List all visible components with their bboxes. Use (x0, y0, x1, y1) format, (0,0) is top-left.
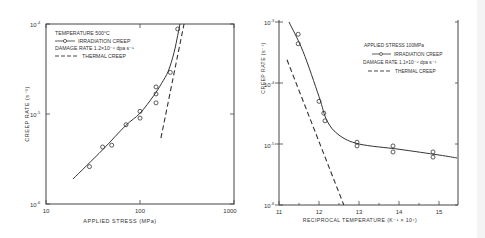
left-axis-ticks (46, 24, 234, 204)
right-legend-damage-rate: DAMAGE RATE 1.1×10⁻⁶ dpa s⁻¹ (363, 60, 437, 65)
right-ytick-label: 10-5 (264, 141, 275, 149)
right-xtick-label: 13 (356, 209, 363, 215)
left-plot-frame (46, 24, 234, 204)
left-ytick-label: 10-4 (30, 20, 41, 28)
right-x-axis-label: RECIPROCAL TEMPERATURE (K⁻¹ × 10⁴) (303, 217, 417, 223)
right-legend-thermal: THERMAL CREEP (395, 69, 436, 74)
figure: 10-4 10-5 10-6 10 100 1000 APPLIED STRES… (0, 0, 485, 238)
left-chart: 10-4 10-5 10-6 10 100 1000 APPLIED STRES… (24, 20, 237, 224)
data-point-marker (87, 165, 91, 169)
right-xtick-label: 14 (396, 209, 403, 215)
right-plot-series (287, 22, 457, 205)
legend-circle-marker-icon (380, 53, 383, 56)
thermal-creep-line (161, 24, 184, 138)
data-point-marker (154, 85, 158, 89)
legend-circle-marker-icon (63, 39, 66, 42)
data-point-marker (138, 116, 142, 120)
left-xtick-label: 10 (43, 208, 50, 214)
data-point-marker (154, 101, 158, 105)
left-xtick-label: 100 (135, 208, 146, 214)
left-xtick-label: 1000 (223, 208, 237, 214)
right-y-axis-label: CREEP RATE (s⁻¹) (260, 42, 266, 93)
data-point-marker (168, 70, 172, 74)
right-xtick-label: 15 (436, 209, 443, 215)
right-legend-title: APPLIED STRESS 100MPa (364, 43, 424, 48)
left-legend-damage-rate: DAMAGE RATE 1.2×10⁻⁶ dpa s⁻¹ (55, 45, 134, 51)
data-point-marker (110, 143, 114, 147)
right-ytick-label: 10-6 (264, 201, 275, 209)
left-ytick-label: 10-5 (30, 110, 41, 118)
data-point-marker (431, 155, 435, 159)
right-xtick-label: 12 (316, 209, 323, 215)
left-ytick-label: 10-6 (30, 200, 41, 208)
left-legend-thermal: THERMAL CREEP (82, 53, 126, 59)
data-point-marker (296, 32, 300, 36)
data-point-marker (391, 150, 395, 154)
right-ytick-label: 10-3 (264, 18, 275, 26)
data-point-marker (391, 144, 395, 148)
charts-svg: 10-4 10-5 10-6 10 100 1000 APPLIED STRES… (0, 0, 485, 238)
left-legend: TEMPERATURE 500°C IRRADIATION CREEP DAMA… (55, 30, 134, 59)
left-y-axis-label: CREEP RATE (s⁻¹) (24, 86, 30, 141)
right-legend-irradiation: IRRADIATION CREEP (394, 52, 442, 57)
data-point-marker (355, 144, 359, 148)
right-chart: 10-3 10-4 10-5 10-6 11 12 13 14 15 RECIP… (260, 18, 458, 223)
right-xtick-label: 11 (276, 209, 283, 215)
left-x-axis-label: APPLIED STRESS (MPa) (83, 218, 156, 224)
left-legend-irradiation: IRRADIATION CREEP (78, 38, 131, 44)
right-legend: APPLIED STRESS 100MPa IRRADIATION CREEP … (363, 43, 442, 74)
left-legend-title: TEMPERATURE 500°C (55, 30, 110, 36)
data-point-marker (431, 150, 435, 154)
